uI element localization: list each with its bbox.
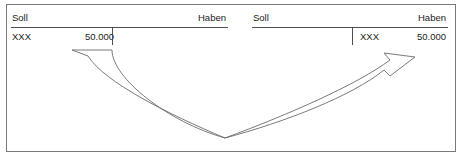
t-account-left-header: Soll Haben bbox=[6, 12, 230, 27]
t-account-left-row: XXX 50.000 bbox=[6, 29, 230, 45]
t-account-right-divider bbox=[352, 27, 353, 45]
t-account-right-header: Soll Haben bbox=[247, 12, 450, 27]
t-account-right-credit-label: XXX bbox=[360, 30, 379, 43]
t-account-right-header-rule bbox=[252, 27, 448, 28]
t-account-left-divider bbox=[112, 27, 113, 45]
t-account-left-header-rule bbox=[11, 27, 228, 28]
t-account-right-credit-amount: 50.000 bbox=[417, 30, 446, 43]
t-account-right-row: XXX 50.000 bbox=[247, 29, 450, 45]
t-account-left-credit-header: Haben bbox=[198, 12, 226, 24]
t-account-left-debit-header: Soll bbox=[12, 12, 28, 24]
t-account-right-credit-header: Haben bbox=[418, 12, 446, 24]
t-account-left-debit-amount: 50.000 bbox=[72, 30, 114, 43]
t-account-right: Soll Haben XXX 50.000 bbox=[247, 12, 450, 48]
t-account-right-debit-header: Soll bbox=[253, 12, 269, 24]
t-account-left: Soll Haben XXX 50.000 bbox=[6, 12, 230, 48]
t-account-left-debit-label: XXX bbox=[12, 30, 31, 43]
diagram-canvas: Soll Haben XXX 50.000 Soll Haben XXX 50.… bbox=[0, 0, 463, 160]
